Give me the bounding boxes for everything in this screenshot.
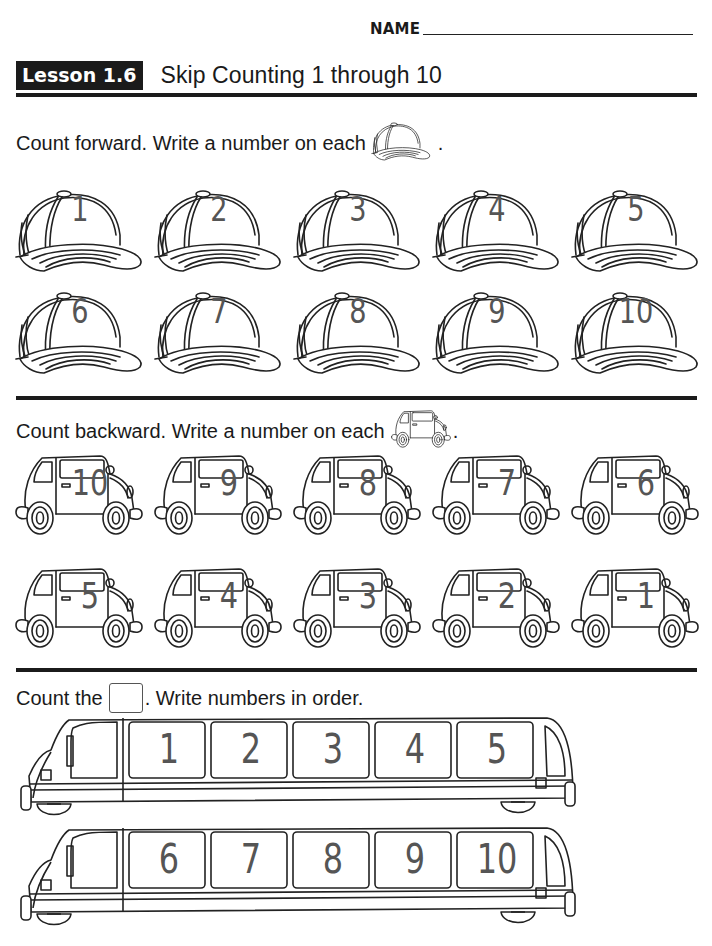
handwritten-answer[interactable]: 3 [349, 575, 387, 616]
handwritten-answer[interactable]: 4 [478, 189, 516, 229]
car-item[interactable]: 3 [290, 563, 424, 653]
order-instruction-start: Count the [16, 687, 103, 710]
lesson-badge: Lesson 1.6 [16, 61, 143, 90]
car-item[interactable]: 10 [12, 450, 146, 540]
backward-instruction-end: . [453, 420, 459, 443]
name-field: NAME [370, 20, 693, 38]
car-item[interactable]: 7 [429, 450, 563, 540]
handwritten-answer[interactable]: 6 [61, 291, 99, 331]
cap-item[interactable]: 6 [12, 287, 146, 377]
handwritten-window-number[interactable]: 3 [302, 726, 364, 772]
handwritten-answer[interactable]: 5 [71, 575, 109, 616]
cap-item[interactable]: 3 [290, 185, 424, 275]
car-item[interactable]: 4 [151, 563, 285, 653]
handwritten-window-number[interactable]: 5 [466, 726, 528, 772]
handwritten-window-number[interactable]: 7 [220, 836, 282, 882]
handwritten-answer[interactable]: 7 [488, 462, 526, 503]
cap-row-2: 678910 [12, 287, 702, 377]
car-icon [389, 408, 453, 455]
cap-item[interactable]: 5 [568, 185, 702, 275]
handwritten-window-number[interactable]: 1 [138, 726, 200, 772]
car-row-2: 54321 [12, 563, 702, 653]
handwritten-answer[interactable]: 8 [349, 462, 387, 503]
handwritten-answer[interactable]: 10 [71, 462, 109, 503]
divider-rule [16, 668, 697, 672]
train-2: 678910 [17, 822, 577, 932]
handwritten-answer[interactable]: 1 [627, 575, 665, 616]
handwritten-answer[interactable]: 9 [478, 291, 516, 331]
car-row-1: 109876 [12, 450, 702, 540]
handwritten-window-number[interactable]: 4 [384, 726, 446, 772]
train-1: 12345 [17, 712, 577, 822]
car-item[interactable]: 5 [12, 563, 146, 653]
car-item[interactable]: 2 [429, 563, 563, 653]
forward-instruction-end: . [438, 132, 444, 155]
handwritten-window-number[interactable]: 10 [466, 836, 528, 882]
car-item[interactable]: 1 [568, 563, 702, 653]
lesson-header: Lesson 1.6 Skip Counting 1 through 10 [16, 61, 442, 90]
cap-item[interactable]: 7 [151, 287, 285, 377]
cap-item[interactable]: 4 [429, 185, 563, 275]
handwritten-answer[interactable]: 2 [488, 575, 526, 616]
car-item[interactable]: 9 [151, 450, 285, 540]
cap-item[interactable]: 9 [429, 287, 563, 377]
handwritten-answer[interactable]: 8 [339, 291, 377, 331]
baseball-cap-icon [370, 120, 432, 167]
handwritten-answer[interactable]: 7 [200, 291, 238, 331]
handwritten-answer[interactable]: 9 [210, 462, 248, 503]
car-item[interactable]: 8 [290, 450, 424, 540]
handwritten-answer[interactable]: 2 [200, 189, 238, 229]
handwritten-window-number[interactable]: 2 [220, 726, 282, 772]
lesson-title: Skip Counting 1 through 10 [160, 62, 441, 89]
divider-rule [16, 93, 697, 97]
cap-row-1: 12345 [12, 185, 702, 275]
handwritten-window-number[interactable]: 8 [302, 836, 364, 882]
handwritten-answer[interactable]: 1 [61, 189, 99, 229]
car-item[interactable]: 6 [568, 450, 702, 540]
handwritten-answer[interactable]: 10 [617, 291, 655, 331]
handwritten-window-number[interactable]: 6 [138, 836, 200, 882]
handwritten-window-number[interactable]: 9 [384, 836, 446, 882]
cap-item[interactable]: 2 [151, 185, 285, 275]
divider-rule [16, 396, 697, 400]
cap-item[interactable]: 10 [568, 287, 702, 377]
handwritten-answer[interactable]: 3 [339, 189, 377, 229]
forward-instruction-text: Count forward. Write a number on each [16, 132, 366, 155]
window-box-icon [109, 683, 143, 713]
handwritten-answer[interactable]: 4 [210, 575, 248, 616]
cap-item[interactable]: 1 [12, 185, 146, 275]
handwritten-answer[interactable]: 6 [627, 462, 665, 503]
name-write-line[interactable] [423, 34, 693, 35]
handwritten-answer[interactable]: 5 [617, 189, 655, 229]
order-instruction-end: . Write numbers in order. [145, 687, 364, 710]
backward-instruction-text: Count backward. Write a number on each [16, 420, 385, 443]
forward-instruction: Count forward. Write a number on each . [16, 120, 443, 167]
name-label: NAME [370, 20, 420, 38]
order-instruction: Count the . Write numbers in order. [16, 683, 363, 713]
backward-instruction: Count backward. Write a number on each . [16, 408, 458, 455]
cap-item[interactable]: 8 [290, 287, 424, 377]
